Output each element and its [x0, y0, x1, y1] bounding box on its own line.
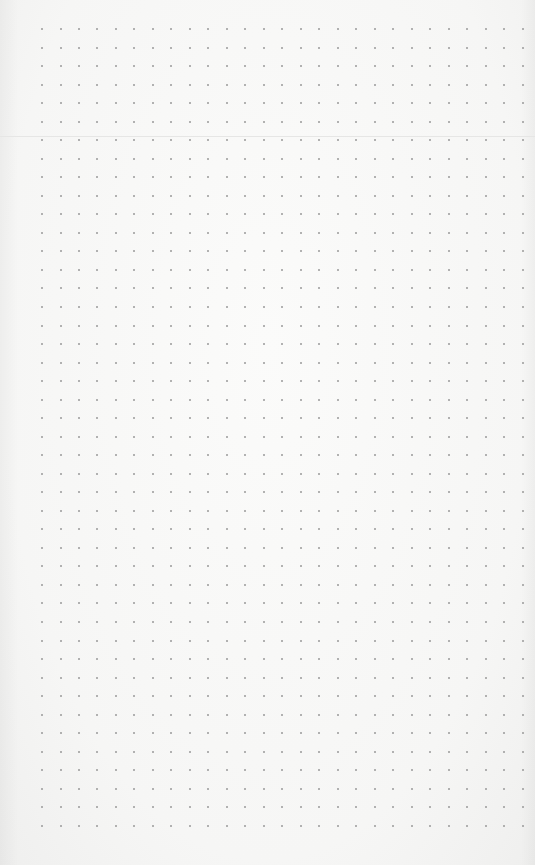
grid-dot: [429, 213, 431, 215]
grid-dot: [244, 473, 246, 475]
grid-dot: [337, 640, 339, 642]
grid-dot: [411, 714, 413, 716]
grid-dot: [244, 139, 246, 141]
grid-dot: [170, 436, 172, 438]
grid-dot: [263, 84, 265, 86]
grid-dot: [318, 28, 320, 30]
grid-dot: [133, 806, 135, 808]
grid-dot: [337, 213, 339, 215]
grid-dot: [207, 454, 209, 456]
grid-dot: [244, 417, 246, 419]
grid-dot: [318, 751, 320, 753]
grid-dot: [133, 325, 135, 327]
grid-dot: [207, 658, 209, 660]
grid-dot: [207, 602, 209, 604]
grid-dot: [78, 399, 80, 401]
grid-dot: [392, 158, 394, 160]
grid-dot: [263, 621, 265, 623]
grid-dot: [133, 769, 135, 771]
grid-dot: [41, 213, 43, 215]
grid-dot: [96, 454, 98, 456]
grid-dot: [485, 602, 487, 604]
grid-dot: [189, 325, 191, 327]
grid-dot: [60, 714, 62, 716]
grid-dot: [152, 677, 154, 679]
grid-dot: [466, 158, 468, 160]
grid-dot: [133, 399, 135, 401]
grid-dot: [207, 269, 209, 271]
grid-dot: [429, 436, 431, 438]
grid-dot: [392, 287, 394, 289]
grid-dot: [374, 769, 376, 771]
grid-dot: [263, 788, 265, 790]
grid-dot: [170, 473, 172, 475]
grid-dot: [300, 454, 302, 456]
grid-dot: [96, 528, 98, 530]
grid-dot: [318, 287, 320, 289]
grid-dot: [96, 325, 98, 327]
grid-dot: [429, 399, 431, 401]
grid-dot: [244, 213, 246, 215]
grid-dot: [503, 269, 505, 271]
grid-dot: [466, 769, 468, 771]
grid-dot: [96, 176, 98, 178]
grid-dot: [337, 658, 339, 660]
grid-dot: [133, 121, 135, 123]
grid-dot: [96, 658, 98, 660]
grid-dot: [244, 584, 246, 586]
grid-dot: [207, 139, 209, 141]
grid-dot: [170, 510, 172, 512]
grid-dot: [263, 806, 265, 808]
grid-dot: [189, 547, 191, 549]
grid-dot: [170, 528, 172, 530]
grid-dot: [429, 547, 431, 549]
grid-dot: [152, 269, 154, 271]
grid-dot: [281, 640, 283, 642]
grid-dot: [152, 565, 154, 567]
grid-dot: [60, 510, 62, 512]
grid-dot: [96, 732, 98, 734]
grid-dot: [133, 28, 135, 30]
grid-dot: [503, 362, 505, 364]
grid-dot: [60, 491, 62, 493]
grid-dot: [300, 287, 302, 289]
grid-dot: [392, 454, 394, 456]
grid-dot: [263, 343, 265, 345]
grid-dot: [170, 176, 172, 178]
grid-dot: [152, 806, 154, 808]
grid-dot: [115, 658, 117, 660]
grid-dot: [170, 158, 172, 160]
grid-dot: [485, 287, 487, 289]
grid-dot: [244, 343, 246, 345]
grid-dot: [281, 232, 283, 234]
grid-dot: [207, 473, 209, 475]
grid-dot: [133, 732, 135, 734]
grid-dot: [115, 343, 117, 345]
grid-dot: [78, 658, 80, 660]
grid-dot: [170, 732, 172, 734]
grid-dot: [374, 195, 376, 197]
grid-dot: [429, 306, 431, 308]
grid-dot: [207, 695, 209, 697]
grid-dot: [115, 788, 117, 790]
grid-dot: [78, 139, 80, 141]
grid-dot: [78, 84, 80, 86]
grid-dot: [115, 825, 117, 827]
grid-dot: [78, 769, 80, 771]
grid-dot: [170, 84, 172, 86]
grid-dot: [152, 695, 154, 697]
grid-dot: [244, 714, 246, 716]
grid-dot: [337, 325, 339, 327]
grid-dot: [337, 714, 339, 716]
grid-dot: [96, 584, 98, 586]
grid-dot: [448, 176, 450, 178]
grid-dot: [133, 584, 135, 586]
grid-dot: [485, 547, 487, 549]
grid-dot: [429, 584, 431, 586]
grid-dot: [170, 806, 172, 808]
dot-grid: [0, 0, 535, 865]
grid-dot: [207, 769, 209, 771]
grid-dot: [170, 269, 172, 271]
grid-dot: [60, 84, 62, 86]
grid-dot: [170, 769, 172, 771]
